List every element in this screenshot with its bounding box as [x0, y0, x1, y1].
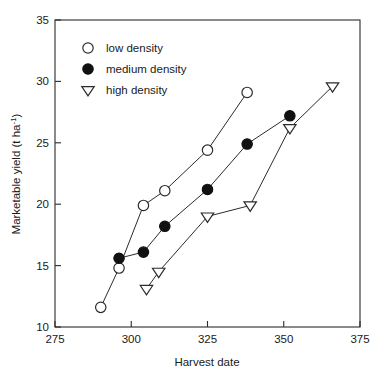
x-tick-label: 325: [198, 333, 217, 345]
marker-filled-circle: [83, 64, 93, 74]
marker-open-circle: [160, 185, 170, 195]
legend-item-high-density: high density: [82, 84, 168, 96]
series-low-density: [96, 87, 253, 312]
data-series-layer: [96, 83, 339, 313]
marker-filled-circle: [160, 221, 170, 231]
x-tick-label: 350: [274, 333, 293, 345]
legend-label: medium density: [106, 63, 187, 75]
y-tick-label: 20: [36, 198, 49, 210]
legend-label: high density: [106, 84, 168, 96]
x-axis-ticks: [55, 321, 360, 327]
legend-label: low density: [106, 42, 163, 54]
marker-open-circle: [83, 43, 93, 53]
y-tick-label: 30: [36, 75, 49, 87]
marker-filled-circle: [285, 111, 295, 121]
y-tick-label: 25: [36, 137, 49, 149]
series-line: [147, 86, 333, 289]
y-axis-title-main: Marketable yield (t ha: [10, 124, 22, 235]
y-axis-title-tail: ): [10, 113, 22, 117]
y-axis-tick-labels: 101520253035: [36, 14, 49, 333]
y-axis-title: Marketable yield (t ha-1): [9, 113, 22, 234]
marker-down-triangle: [284, 125, 296, 134]
legend-item-medium-density: medium density: [83, 63, 187, 75]
marker-filled-circle: [202, 184, 212, 194]
marker-open-circle: [96, 302, 106, 312]
marker-open-circle: [242, 87, 252, 97]
scatter-plot: 101520253035 275300325350375 low density…: [0, 0, 389, 376]
y-tick-label: 10: [36, 321, 49, 333]
y-tick-label: 15: [36, 260, 49, 272]
x-tick-label: 300: [122, 333, 141, 345]
chart-figure: 101520253035 275300325350375 low density…: [0, 0, 389, 376]
y-axis-ticks: [55, 20, 61, 327]
marker-down-triangle: [153, 268, 165, 277]
marker-open-circle: [202, 145, 212, 155]
marker-filled-circle: [114, 253, 124, 263]
y-tick-label: 35: [36, 14, 49, 26]
marker-filled-circle: [138, 247, 148, 257]
x-axis-tick-labels: 275300325350375: [45, 333, 369, 345]
marker-filled-circle: [242, 139, 252, 149]
marker-down-triangle: [140, 285, 152, 294]
marker-open-circle: [138, 200, 148, 210]
series-line: [101, 92, 247, 307]
plot-frame: [55, 20, 360, 327]
x-tick-label: 375: [350, 333, 369, 345]
x-axis-title: Harvest date: [174, 356, 239, 368]
chart-legend: low densitymedium densityhigh density: [82, 42, 187, 96]
legend-item-low-density: low density: [83, 42, 163, 54]
series-medium-density: [114, 111, 295, 264]
marker-open-circle: [114, 263, 124, 273]
marker-down-triangle: [82, 87, 94, 96]
x-tick-label: 275: [45, 333, 64, 345]
